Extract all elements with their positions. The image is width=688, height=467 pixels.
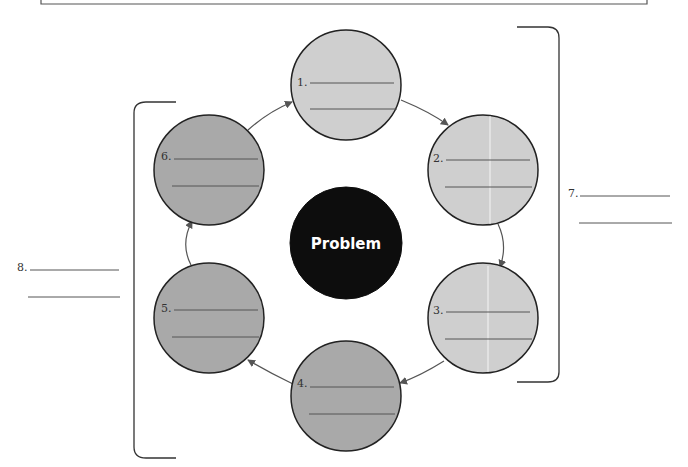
cycle-node-3: 3. [428, 263, 538, 373]
bracket-number: 7. [568, 187, 579, 200]
node-number: 3. [433, 304, 444, 317]
arrow-3-to-4 [400, 361, 444, 383]
cycle-node-4: 4. [291, 341, 401, 451]
cycle-node-6: 6. [154, 115, 264, 225]
arrow-1-to-2 [401, 100, 448, 125]
node-number: 2. [433, 152, 444, 165]
arrow-2-to-3 [498, 224, 504, 267]
arrow-6-to-1 [248, 102, 292, 130]
arrow-5-to-6 [186, 221, 192, 265]
node-number: 1. [297, 76, 308, 89]
header-box-border [41, 0, 647, 4]
arrow-4-to-5 [248, 360, 293, 384]
bracket-8-answer: 8. [17, 261, 120, 297]
node-number: 4. [297, 377, 308, 390]
problem-cycle-diagram: 1. 2. 3. 4. 5. 6. [0, 0, 688, 467]
center-label: Problem [311, 235, 381, 253]
node-number: 6. [161, 150, 172, 163]
node-number: 5. [161, 302, 172, 315]
cycle-node-1: 1. [291, 30, 401, 140]
bracket-number: 8. [17, 261, 28, 274]
bracket-7-answer: 7. [568, 187, 672, 223]
cycle-node-5: 5. [154, 263, 264, 373]
cycle-node-2: 2. [428, 115, 538, 225]
center-problem-node: Problem [290, 187, 402, 299]
